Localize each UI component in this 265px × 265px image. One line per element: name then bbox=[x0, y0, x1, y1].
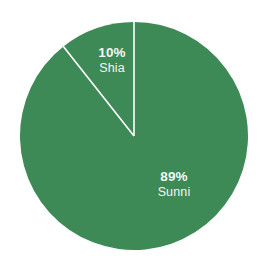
pie-chart-canvas bbox=[0, 0, 265, 265]
pie-chart: 10% Shia 89% Sunni bbox=[0, 0, 265, 265]
